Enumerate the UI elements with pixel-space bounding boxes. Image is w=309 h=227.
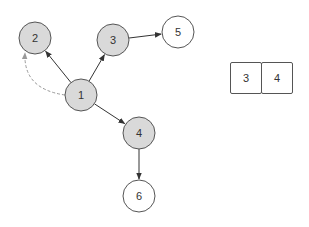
node-6: 6 (123, 180, 155, 212)
node-label: 3 (110, 34, 116, 46)
array-cell-0: 3 (230, 62, 262, 94)
edge-1-3 (89, 55, 104, 81)
edge-1-2 (46, 51, 71, 82)
node-4: 4 (123, 117, 155, 149)
node-label: 1 (78, 89, 84, 101)
array-cell-label: 4 (274, 72, 280, 84)
node-label: 2 (32, 32, 38, 44)
array-cell-label: 3 (243, 72, 249, 84)
node-3: 3 (97, 24, 129, 56)
array-cell-1: 4 (261, 62, 293, 94)
dashed-edge-1-2 (25, 53, 65, 95)
node-2: 2 (19, 22, 51, 54)
nodes: 123456 (19, 16, 194, 212)
node-label: 5 (175, 26, 181, 38)
node-label: 4 (136, 127, 142, 139)
edges (25, 34, 161, 179)
graph-diagram: 123456 (0, 0, 309, 227)
edge-3-5 (129, 34, 161, 38)
node-1: 1 (65, 79, 97, 111)
node-label: 6 (136, 190, 142, 202)
edge-1-4 (94, 104, 124, 124)
node-5: 5 (162, 16, 194, 48)
